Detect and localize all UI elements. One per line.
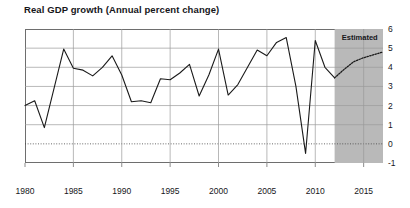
x-axis-tick-label: 1980	[16, 186, 35, 196]
x-axis-tick-label: 1985	[64, 186, 83, 196]
x-axis-tick-label: 1995	[161, 186, 180, 196]
chart-title: Real GDP growth (Annual percent change)	[24, 4, 219, 15]
y-axis-tick-label: 0	[388, 139, 393, 149]
x-axis-tick-label: 2000	[209, 186, 228, 196]
x-axis-tick-label: 2015	[354, 186, 373, 196]
y-axis-tick-label: -1	[388, 158, 396, 168]
chart-canvas	[25, 29, 383, 169]
plot-area	[25, 29, 383, 163]
y-axis-tick-label: 5	[388, 43, 393, 53]
y-axis-tick-label: 4	[388, 62, 393, 72]
gdp-growth-chart: Real GDP growth (Annual percent change) …	[0, 0, 410, 208]
x-axis-tick-label: 1990	[112, 186, 131, 196]
y-axis-tick-label: 2	[388, 101, 393, 111]
y-axis-tick-label: 3	[388, 81, 393, 91]
x-axis-tick-label: 2010	[306, 186, 325, 196]
y-axis-tick-label: 6	[388, 24, 393, 34]
x-axis-tick-label: 2005	[257, 186, 276, 196]
series-line-actual	[25, 38, 335, 154]
estimated-annotation-label: Estimated	[342, 32, 378, 41]
y-axis-tick-label: 1	[388, 120, 393, 130]
estimated-shaded-band	[335, 29, 383, 163]
